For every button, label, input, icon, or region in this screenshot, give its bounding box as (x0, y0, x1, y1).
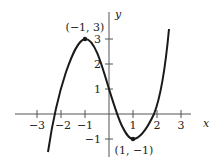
min-point-label: (1, −1) (115, 144, 154, 157)
cubic-function-graph: −3 −2 −1 1 2 3 3 2 1 −1 x y (−1, 3) (1, … (0, 0, 218, 163)
min-point-marker (131, 137, 135, 141)
y-tick-label: −1 (85, 133, 101, 146)
x-tick-label: 2 (154, 119, 161, 132)
y-tick-label: 3 (94, 33, 101, 46)
max-point-marker (83, 37, 87, 41)
max-point-label: (−1, 3) (66, 21, 105, 34)
x-tick-label: −2 (55, 119, 71, 132)
x-tick-label: 3 (178, 119, 185, 132)
x-tick-label: 1 (130, 119, 137, 132)
y-tick-label: 1 (94, 83, 101, 96)
x-tick-label: −1 (77, 119, 93, 132)
x-axis-label: x (203, 117, 210, 130)
y-axis-label: y (114, 8, 122, 21)
x-tick-label: −3 (29, 119, 45, 132)
